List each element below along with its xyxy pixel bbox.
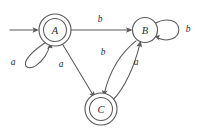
transition-a-to-c: a — [59, 44, 95, 98]
transition-b-to-c: b — [101, 41, 136, 97]
transition-b-self-loop: b — [154, 20, 190, 41]
transition-label-a-self: a — [11, 57, 16, 67]
automaton-canvas: a b a b a b — [0, 0, 200, 135]
state-node-c[interactable]: C — [85, 93, 117, 125]
transition-label-c-to-b: a — [134, 57, 139, 67]
transition-c-to-b: a — [113, 41, 142, 100]
state-c-label: C — [97, 104, 105, 115]
transition-label-a-to-c: a — [59, 59, 64, 69]
transition-a-to-c-path — [63, 44, 93, 94]
automaton-figure: a b a b a b — [0, 0, 200, 135]
transition-b-to-c-path — [105, 41, 137, 93]
transition-a-to-b: b — [71, 14, 132, 33]
transition-label-b-to-c: b — [101, 47, 106, 57]
transition-label-b-self: b — [186, 24, 191, 34]
state-a-label: A — [51, 25, 59, 36]
transition-c-to-b-path — [113, 45, 140, 100]
state-node-a[interactable]: A — [39, 14, 71, 46]
transition-label-a-to-b: b — [98, 14, 103, 24]
state-node-b[interactable]: B — [133, 18, 158, 43]
transition-a-self-loop-path — [25, 42, 49, 68]
transition-a-self-loop: a — [11, 42, 53, 68]
state-b-label: B — [142, 25, 149, 36]
start-arrow — [10, 27, 39, 33]
